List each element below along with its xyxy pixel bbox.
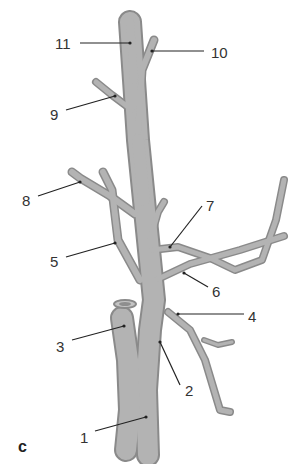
label-4: 4 (248, 309, 256, 324)
label-11: 11 (55, 36, 71, 51)
label-9: 9 (50, 107, 58, 122)
label-7: 7 (206, 198, 214, 213)
label-6: 6 (212, 284, 220, 299)
label-10: 10 (211, 45, 228, 60)
vessel-diagram (0, 0, 299, 464)
vessel-tree (72, 22, 284, 455)
panel-label: c (18, 438, 27, 456)
label-2: 2 (185, 383, 193, 398)
label-3: 3 (56, 339, 64, 354)
label-5: 5 (50, 254, 58, 269)
label-8: 8 (22, 193, 30, 208)
label-1: 1 (80, 430, 88, 445)
